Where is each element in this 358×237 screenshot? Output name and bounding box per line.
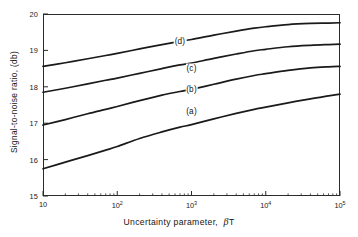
curve-label-c: (c) (185, 63, 197, 72)
figure: 151617181920 10102103104105 (a)(b)(c)(d)… (0, 0, 358, 237)
curve-label-a: (a) (185, 107, 198, 116)
curve-label-b: (b) (185, 85, 198, 94)
curve-label-d: (d) (174, 36, 187, 45)
x-tick-label-100000: 105 (334, 200, 345, 210)
x-axis-title-suffix: T (229, 217, 235, 227)
x-axis-title-text: Uncertainty parameter, (123, 217, 223, 227)
y-tick-label-16: 16 (16, 155, 38, 164)
curve-b (43, 66, 340, 125)
curve-a (43, 94, 340, 169)
x-tick-label-100: 102 (112, 200, 123, 210)
x-tick-label-10000: 104 (260, 200, 271, 210)
x-axis-title: Uncertainty parameter, βT (0, 216, 358, 227)
y-tick-label-20: 20 (16, 10, 38, 19)
y-tick-label-15: 15 (16, 192, 38, 201)
data-curves (43, 23, 340, 169)
curve-d (43, 23, 340, 67)
y-tick-label-17: 17 (16, 119, 38, 128)
y-tick-label-18: 18 (16, 82, 38, 91)
x-tick-label-10: 10 (39, 200, 47, 209)
y-axis-title: Signal-to-noise ratio, (db) (9, 16, 19, 188)
x-tick-label-1000: 103 (186, 200, 197, 210)
x-axis-minor-ticks (65, 193, 336, 196)
y-tick-label-19: 19 (16, 46, 38, 55)
